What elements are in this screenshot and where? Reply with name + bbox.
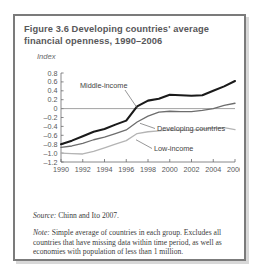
series-annotation-label: Developing countries <box>157 124 225 133</box>
x-axis-tick-label: 1998 <box>140 165 156 174</box>
x-axis-tick-label: 2006 <box>227 165 240 174</box>
annotation-leader-line <box>125 90 137 108</box>
y-axis-tick-label: –0.2 <box>44 113 58 122</box>
figure-screenshot: Figure 3.6 Developing countries' average… <box>0 0 264 278</box>
y-axis-tick-label: –0.6 <box>44 131 58 140</box>
source-value: Chinn and Ito 2007. <box>56 211 119 220</box>
figure-inner: Figure 3.6 Developing countries' average… <box>24 23 240 257</box>
x-axis-tick-label: 1994 <box>97 165 113 174</box>
y-axis-tick-label: 0.4 <box>48 86 58 95</box>
y-axis-tick-label: –0.4 <box>44 122 58 131</box>
x-axis-tick-label: 2000 <box>162 165 178 174</box>
series-annotation-label: Low-income <box>154 144 193 153</box>
y-axis-tick-label: –1.0 <box>44 149 58 158</box>
figure-box: Figure 3.6 Developing countries' average… <box>13 14 246 261</box>
x-axis-tick-label: 1990 <box>53 165 69 174</box>
series-line-middle-income <box>61 81 235 144</box>
line-chart: 0.80.60.40.20–0.2–0.4–0.6–0.8–1.0–1.2199… <box>24 67 240 182</box>
annotation-leader-line <box>136 140 152 149</box>
y-axis-tick-label: 0.6 <box>48 77 58 86</box>
series-annotation-label: Middle-income <box>80 81 127 90</box>
note-label: Note: <box>33 228 50 237</box>
source-label: Source: <box>33 211 56 220</box>
annotation-leader-line <box>140 123 155 128</box>
y-axis-tick-label: 0 <box>54 104 58 113</box>
y-axis-tick-label: 0.8 <box>48 69 58 78</box>
x-axis-tick-label: 2004 <box>205 165 221 174</box>
x-axis-tick-label: 1992 <box>75 165 91 174</box>
y-axis-tick-label: –0.8 <box>44 140 58 149</box>
source-note: Source: Chinn and Ito 2007. <box>33 211 243 221</box>
explanatory-note: Note: Simple average of countries in eac… <box>33 228 243 257</box>
note-value: Simple average of countries in each grou… <box>33 228 222 256</box>
chart-svg: 0.80.60.40.20–0.2–0.4–0.6–0.8–1.0–1.2199… <box>24 67 240 182</box>
x-axis-tick-label: 1996 <box>118 165 134 174</box>
page-title: Figure 3.6 Developing countries' average… <box>24 23 234 48</box>
figure-notes: Source: Chinn and Ito 2007. Note: Simple… <box>33 211 243 257</box>
x-axis-tick-label: 2002 <box>184 165 200 174</box>
y-axis-tick-label: 0.2 <box>48 95 58 104</box>
y-axis-unit-label: Index <box>37 52 56 61</box>
